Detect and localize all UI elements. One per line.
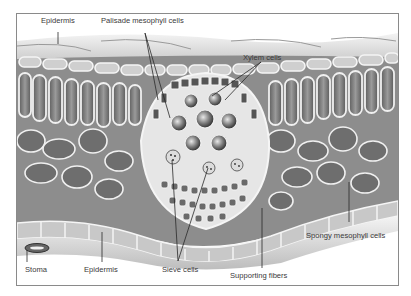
label-epidermis-top: Epidermis	[41, 17, 75, 25]
label-xylem-cells: Xylem cells	[243, 54, 281, 62]
diagram-frame	[16, 13, 399, 286]
label-epidermis-bottom: Epidermis	[84, 266, 118, 274]
label-spongy-mesophyll: Spongy mesophyll cells	[306, 232, 385, 240]
label-supporting-fibers: Supporting fibers	[230, 272, 287, 280]
label-palisade-mesophyll: Palisade mesophyll cells	[101, 17, 184, 25]
leaf-cross-section-illustration	[17, 14, 398, 285]
label-sieve-cells: Sieve cells	[162, 266, 198, 274]
label-stoma: Stoma	[25, 266, 47, 274]
